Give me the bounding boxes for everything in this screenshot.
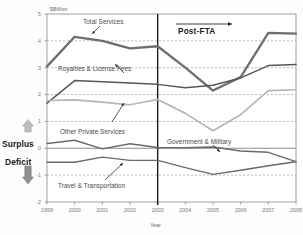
series-label-royalties: Royalties & License Fees [58,65,131,72]
series-label-total-services: Total Services [83,18,123,25]
y-axis-tick-label: 3 [27,65,41,71]
deficit-label: Deficit [5,157,31,167]
post-fta-annotation: Post-FTA [178,27,215,36]
y-axis-unit-label: $Billion [50,6,68,12]
y-axis-tick-label: 0 [27,145,41,151]
chart-figure: $Billion Year Post-FTA Surplus Deficit T… [0,0,303,235]
line-chart-canvas [0,0,303,235]
y-axis-tick-label: 2 [27,91,41,97]
x-axis-tick-label: 2005 [201,207,225,213]
x-axis-tick-label: 2008 [284,207,303,213]
x-axis-tick-label: 2003 [146,207,170,213]
x-axis-tick-label: 2004 [173,207,197,213]
x-axis-tick-label: 2007 [256,207,280,213]
x-axis-tick-label: 2001 [90,207,114,213]
y-axis-tick-label: -2 [27,199,41,205]
series-label-travel: Travel & Transportation [58,182,125,189]
x-axis-title: Year [150,222,161,228]
y-axis-tick-label: -1 [27,172,41,178]
x-axis-tick-label: 2000 [63,207,87,213]
series-label-other-private: Other Private Services [60,128,125,135]
y-axis-tick-label: 1 [27,118,41,124]
x-axis-tick-label: 2006 [229,207,253,213]
series-label-government: Government & Military [167,138,231,145]
y-axis-tick-label: 4 [27,38,41,44]
x-axis-tick-label: 1999 [35,207,59,213]
y-axis-tick-label: 5 [27,11,41,17]
x-axis-tick-label: 2002 [118,207,142,213]
